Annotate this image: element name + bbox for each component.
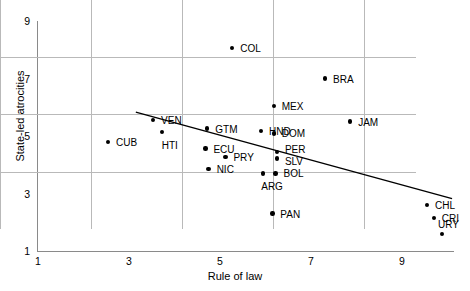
x-tick-label: 7 [300, 255, 322, 267]
data-point-label-chl: CHL [435, 201, 455, 211]
data-point-ecu [203, 146, 207, 150]
data-point-pry [223, 155, 227, 159]
data-point-gtm [205, 126, 209, 130]
x-tick-label: 3 [118, 255, 140, 267]
gridline-horizontal [0, 172, 416, 173]
data-point-dom [272, 131, 276, 135]
data-point-label-per: PER [285, 145, 306, 155]
data-point-cri [432, 216, 436, 220]
data-point-col [230, 46, 234, 50]
data-point-chl [425, 203, 429, 207]
x-axis-line [37, 251, 454, 252]
data-point-cub [106, 140, 110, 144]
y-tick-label: 9 [8, 15, 30, 27]
data-point-nic [206, 167, 210, 171]
gridline-horizontal [0, 57, 416, 58]
data-point-label-slv: SLV [285, 157, 303, 167]
data-point-label-hti: HTI [162, 141, 178, 151]
y-tick-label: 1 [8, 245, 30, 257]
data-point-label-bol: BOL [284, 169, 304, 179]
data-point-slv [275, 156, 279, 160]
data-point-ven [151, 118, 155, 122]
data-point-label-ury: URY [438, 220, 459, 230]
data-point-jam [348, 119, 352, 123]
data-point-label-pan: PAN [280, 210, 300, 220]
gridline-vertical [0, 0, 1, 229]
data-point-bol [273, 171, 277, 175]
data-point-label-mex: MEX [282, 102, 304, 112]
data-point-label-cub: CUB [116, 138, 137, 148]
trendline [0, 0, 470, 291]
data-point-label-pry: PRY [233, 153, 253, 163]
data-point-hti [160, 130, 164, 134]
scatter-chart: 1357913579 CUBVENHTIECUNICGTMPRYCOLHNDAR… [0, 0, 470, 291]
x-tick-label: 5 [209, 255, 231, 267]
data-point-label-dom: DOM [282, 129, 305, 139]
data-point-pan [270, 211, 274, 215]
data-point-mex [272, 104, 276, 108]
data-point-label-jam: JAM [358, 118, 378, 128]
gridline-horizontal [0, 114, 416, 115]
data-point-ury [440, 232, 444, 236]
data-point-label-ecu: ECU [213, 145, 234, 155]
data-point-bra [323, 76, 327, 80]
data-point-label-col: COL [240, 44, 261, 54]
data-point-label-nic: NIC [217, 165, 234, 175]
data-point-label-ven: VEN [161, 116, 182, 126]
x-tick-label: 9 [391, 255, 413, 267]
data-point-label-bra: BRA [333, 75, 354, 85]
data-point-label-gtm: GTM [215, 125, 237, 135]
x-axis-title: Rule of law [0, 270, 470, 282]
data-point-hnd [259, 129, 263, 133]
x-tick-label: 1 [27, 255, 49, 267]
data-point-arg [261, 171, 265, 175]
data-point-per [275, 150, 279, 154]
data-point-label-arg: ARG [261, 182, 283, 192]
y-axis-title: State-led atrocities [14, 36, 26, 196]
